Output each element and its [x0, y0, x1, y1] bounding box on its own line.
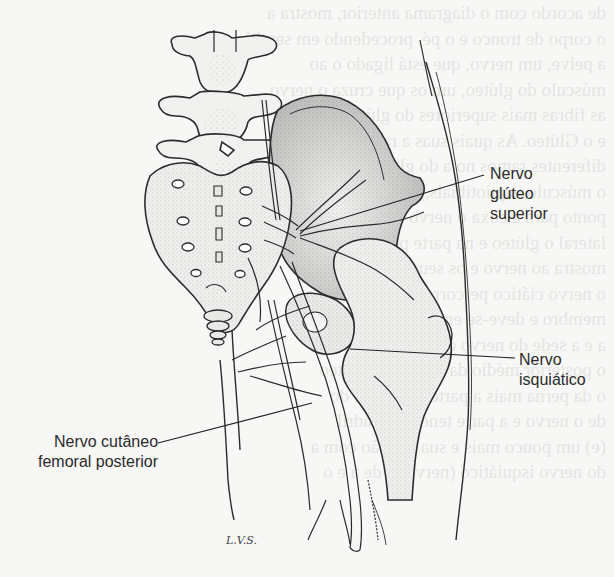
label-nervo-isquiatico: Nervo isquiático — [519, 350, 586, 390]
label-line: Nervo cutâneo — [38, 432, 158, 452]
book-page: de acordo com o diagrama anterior, mostr… — [0, 0, 614, 577]
label-line: Nervo — [490, 164, 548, 184]
femur — [334, 239, 452, 500]
artist-signature: L.V.S. — [226, 534, 257, 547]
label-line: isquiático — [519, 370, 586, 390]
label-line: superior — [490, 204, 548, 224]
label-nervo-cutaneo-femoral-posterior: Nervo cutâneo femoral posterior — [38, 432, 158, 472]
sacrum — [145, 162, 292, 345]
pelvis-illustration — [0, 0, 614, 577]
label-line: Nervo — [519, 350, 586, 370]
label-line: glúteo — [490, 184, 548, 204]
label-nervo-gluteo-superior: Nervo glúteo superior — [490, 164, 548, 224]
label-line: femoral posterior — [38, 452, 158, 472]
leader-cutaneo-femoral — [158, 403, 312, 443]
